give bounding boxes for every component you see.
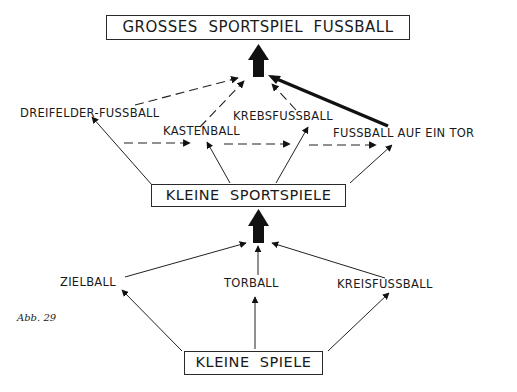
big-arrow-lower bbox=[248, 209, 269, 243]
middle-box-label: KLEINE SPORTSPIELE bbox=[166, 187, 332, 203]
top-box: GROSSES SPORTSPIEL FUSSBALL bbox=[106, 15, 410, 40]
game-torball: TORBALL bbox=[224, 276, 279, 290]
bottom-box-label: KLEINE SPIELE bbox=[196, 354, 312, 370]
game-kastenball: KASTENBALL bbox=[163, 124, 240, 138]
bottom-box: KLEINE SPIELE bbox=[184, 351, 323, 375]
solid-to-middle bbox=[125, 243, 385, 278]
game-fussball-auf-ein-tor: FUSSBALL AUF EIN TOR bbox=[333, 126, 474, 140]
game-dreifelder-fussball: DREIFELDER-FUSSBALL bbox=[20, 106, 160, 120]
dashed-progression bbox=[124, 143, 376, 145]
middle-box: KLEINE SPORTSPIELE bbox=[151, 184, 346, 207]
solid-to-lower-games bbox=[122, 290, 389, 351]
big-arrow-upper bbox=[248, 44, 269, 77]
top-box-label: GROSSES SPORTSPIEL FUSSBALL bbox=[122, 18, 393, 36]
figure-caption: Abb. 29 bbox=[17, 312, 56, 323]
game-kreisfussball: KREISFUSSBALL bbox=[337, 277, 433, 291]
game-zielball: ZIELBALL bbox=[60, 275, 116, 289]
game-krebsfussball: KREBSFUSSBALL bbox=[233, 109, 333, 123]
